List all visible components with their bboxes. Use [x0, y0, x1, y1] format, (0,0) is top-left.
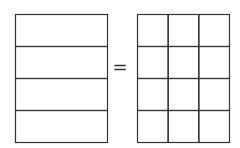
grid-cell [16, 15, 108, 47]
grid-cell [138, 15, 169, 47]
right-grid [138, 15, 230, 143]
grid-cell [168, 47, 199, 79]
left-grid [16, 15, 108, 143]
grid-cell [16, 111, 108, 143]
grid-cell [168, 111, 199, 143]
grid-cell [16, 79, 108, 111]
grid-cell [199, 15, 230, 47]
grid-cell [199, 47, 230, 79]
grid-cell [138, 79, 169, 111]
grid-cell [138, 111, 169, 143]
equals-sign: = [112, 58, 128, 76]
grid-cell [138, 47, 169, 79]
grid-cell [16, 47, 108, 79]
grid-cell [199, 79, 230, 111]
grid-cell [199, 111, 230, 143]
grid-cell [168, 15, 199, 47]
grid-cell [168, 79, 199, 111]
